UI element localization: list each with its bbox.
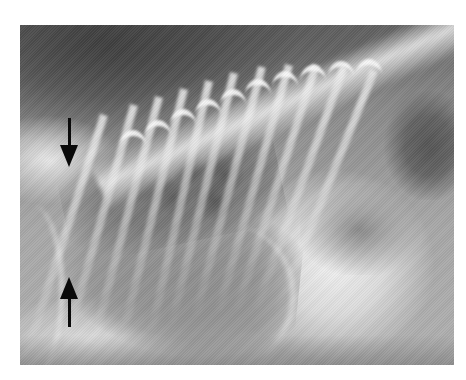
vertebrae — [20, 25, 454, 365]
vertebra — [145, 120, 171, 152]
caudal-lung-region — [300, 185, 420, 275]
arrow-head — [60, 277, 78, 299]
radiograph-background — [20, 25, 454, 365]
vertebra — [328, 61, 354, 93]
arrow-shaft — [68, 118, 71, 146]
rib — [117, 88, 188, 342]
rib — [191, 66, 266, 319]
arrow-shaft — [68, 298, 71, 327]
vertebra — [245, 79, 271, 111]
rib — [147, 80, 213, 335]
cardiac-silhouette — [42, 182, 307, 365]
vertebra — [300, 65, 326, 97]
arrow-up-icon — [60, 277, 78, 327]
sternal-edge — [20, 205, 64, 365]
vertebra — [195, 99, 221, 131]
gas-filled-region — [375, 80, 454, 200]
rib — [251, 66, 347, 313]
ribs — [20, 25, 454, 365]
abdomen-shadow — [20, 335, 454, 365]
cardiac-border — [160, 225, 296, 365]
lung-field — [50, 103, 290, 266]
spine — [90, 25, 454, 211]
vertebra — [120, 130, 146, 162]
vertebra — [356, 59, 382, 91]
bright-region-bottom-left — [20, 275, 230, 365]
rib — [88, 96, 163, 349]
bright-region-right — [230, 145, 454, 365]
arrow-down-icon — [60, 118, 78, 168]
rib — [273, 70, 378, 314]
arrow-head — [60, 145, 78, 167]
radiograph-image — [20, 25, 454, 365]
rib — [167, 72, 238, 326]
vertebra — [220, 89, 246, 121]
vertebra — [170, 109, 196, 141]
vertebra — [272, 71, 298, 103]
rib — [232, 64, 320, 314]
rib — [213, 64, 292, 316]
film-grain — [20, 25, 454, 365]
